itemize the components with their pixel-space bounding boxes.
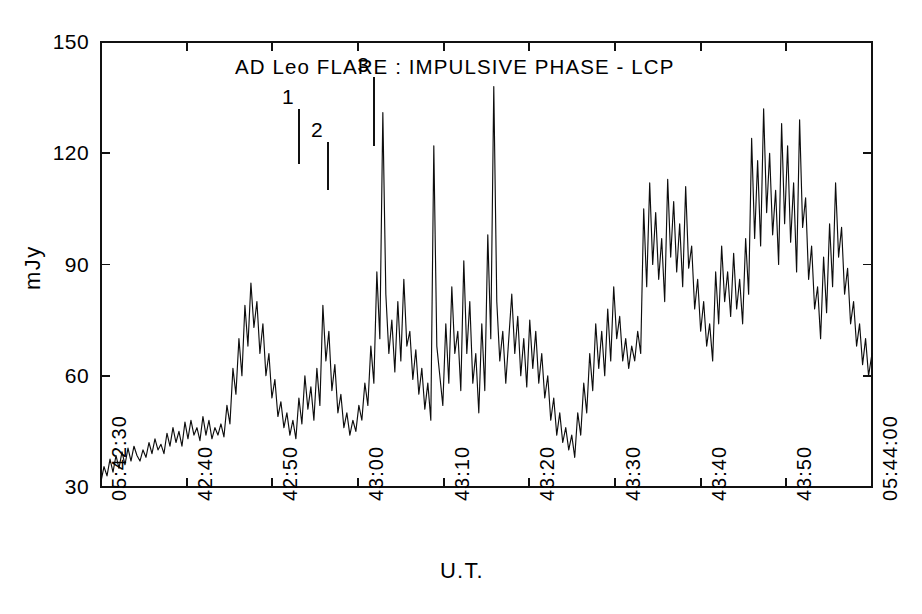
axis-ticks <box>101 42 872 487</box>
x-tick-label: 43:40 <box>709 446 729 501</box>
x-tick-label: 42:50 <box>280 446 300 501</box>
x-tick-label: 43:20 <box>537 446 557 501</box>
axes-frame <box>101 42 872 487</box>
figure-root: AD Leo FLARE : IMPULSIVE PHASE - LCP mJy… <box>0 0 922 614</box>
plot-canvas <box>0 0 922 614</box>
y-tick-label: 90 <box>29 254 89 275</box>
peak-label-1: 1 <box>282 86 294 107</box>
x-tick-label: 43:00 <box>366 446 386 501</box>
data-series-lightcurve <box>101 87 872 482</box>
y-tick-label: 150 <box>29 31 89 52</box>
x-tick-label: 43:10 <box>452 446 472 501</box>
x-axis-title: U.T. <box>440 560 484 582</box>
y-tick-label: 120 <box>29 142 89 163</box>
x-tick-label: 42:40 <box>195 446 215 501</box>
x-tick-label: 05:44:00 <box>880 415 900 501</box>
x-tick-label: 43:50 <box>794 446 814 501</box>
x-tick-label: 43:30 <box>623 446 643 501</box>
y-tick-label: 60 <box>29 365 89 386</box>
peak-label-3: 3 <box>357 54 369 75</box>
chart-title: AD Leo FLARE : IMPULSIVE PHASE - LCP <box>235 57 675 78</box>
y-tick-label: 30 <box>29 476 89 497</box>
x-tick-label: 05:42:30 <box>109 415 129 501</box>
peak-label-2: 2 <box>311 119 323 140</box>
